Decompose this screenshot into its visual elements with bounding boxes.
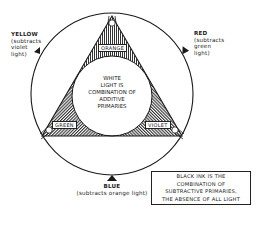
yellow-line: (subtracts <box>11 38 41 45</box>
segment-label-violet: VIOLET <box>145 121 171 129</box>
yellow-title: YELLOW <box>11 31 41 38</box>
yellow-line: violet <box>11 44 41 51</box>
segment-label-orange: ORANGE <box>98 44 127 52</box>
black-ink-note: BLACK INK IS THE COMBINATION OF SUBTRACT… <box>151 171 251 205</box>
center-line: PRIMARIES <box>82 103 142 110</box>
red-title: RED <box>194 30 224 37</box>
center-line: COMBINATION OF <box>82 89 142 96</box>
note-line: THE ABSENCE OF ALL LIGHT <box>152 196 250 204</box>
blue-pointer-icon <box>107 175 117 181</box>
red-line: green <box>194 43 224 50</box>
center-line: LIGHT IS <box>82 82 142 89</box>
yellow-line: light) <box>11 51 41 58</box>
note-line: BLACK INK IS THE <box>152 173 250 181</box>
red-line: light) <box>194 50 224 57</box>
note-line: SUBTRACTIVE PRIMARIES, <box>152 188 250 196</box>
yellow-label: YELLOW (subtracts violet light) <box>11 31 41 57</box>
blue-title: BLUE <box>74 183 150 190</box>
center-line: ADDITIVE <box>82 96 142 103</box>
red-label: RED (subtracts green light) <box>194 30 224 56</box>
blue-line: (subtracts orange light) <box>74 190 150 197</box>
center-line: WHITE <box>82 75 142 82</box>
red-pointer-icon <box>182 46 190 55</box>
segment-label-green: GREEN <box>52 121 77 129</box>
note-line: COMBINATION OF <box>152 181 250 189</box>
center-text: WHITE LIGHT IS COMBINATION OF ADDITIVE P… <box>82 75 142 110</box>
blue-label: BLUE (subtracts orange light) <box>74 183 150 196</box>
red-line: (subtracts <box>194 37 224 44</box>
